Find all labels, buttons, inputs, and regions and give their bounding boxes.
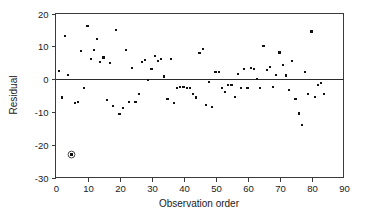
data-point: [301, 124, 303, 126]
x-tick-label: 10: [83, 183, 94, 194]
data-point: [304, 71, 306, 73]
data-point: [218, 71, 220, 73]
data-point: [166, 98, 168, 100]
data-point: [147, 79, 149, 81]
data-point: [291, 60, 293, 62]
data-point: [224, 91, 226, 93]
data-point: [211, 106, 213, 108]
data-point: [99, 61, 101, 63]
x-tick-label: 90: [339, 183, 350, 194]
data-point: [74, 102, 76, 104]
data-point: [131, 67, 133, 69]
x-axis-title: Observation order: [159, 198, 240, 209]
data-point: [272, 86, 274, 88]
data-point: [314, 96, 316, 98]
data-point: [122, 107, 124, 109]
data-point: [288, 89, 290, 91]
data-point: [115, 29, 117, 31]
residual-plot-canvas: 20100-10-20-30 0102030405060708090 Obser…: [0, 0, 368, 217]
x-tick-label: 80: [307, 183, 318, 194]
data-point: [285, 74, 287, 76]
data-point: [230, 84, 232, 86]
scatter-points: [58, 25, 326, 156]
data-point: [250, 67, 252, 69]
x-tick-label: 40: [179, 183, 190, 194]
x-tick-label: 50: [211, 183, 222, 194]
x-tick-label: 60: [243, 183, 254, 194]
data-point: [214, 71, 216, 73]
data-point: [208, 81, 210, 83]
data-point: [234, 96, 236, 98]
data-point: [93, 49, 95, 51]
data-point: [259, 87, 261, 89]
data-point: [102, 56, 104, 58]
y-axis: 20100-10-20-30: [35, 9, 56, 184]
data-point: [179, 86, 181, 88]
data-point: [240, 87, 242, 89]
data-point: [118, 113, 120, 115]
data-point: [195, 96, 197, 98]
y-tick-label: 20: [38, 9, 49, 20]
data-point: [221, 87, 223, 89]
y-tick-label: -20: [35, 140, 49, 151]
data-point: [323, 93, 325, 95]
x-tick-label: 70: [275, 183, 286, 194]
data-point: [269, 66, 271, 68]
data-point: [275, 74, 277, 76]
data-point: [310, 30, 312, 32]
y-tick-label: -30: [35, 173, 49, 184]
data-point: [106, 99, 108, 101]
data-point: [173, 102, 175, 104]
data-point: [128, 101, 130, 103]
data-point: [80, 50, 82, 52]
data-point: [202, 48, 204, 50]
data-point: [109, 62, 111, 64]
data-point: [298, 112, 300, 114]
data-point: [317, 84, 319, 86]
data-point: [282, 64, 284, 66]
x-axis: 0102030405060708090: [54, 178, 350, 194]
data-point: [170, 58, 172, 60]
data-point: [86, 25, 88, 27]
y-tick-label: -10: [35, 107, 49, 118]
data-point: [307, 93, 309, 95]
data-point: [262, 45, 264, 47]
data-point: [144, 59, 146, 61]
data-point: [64, 35, 66, 37]
y-axis-title: Residual: [8, 76, 19, 115]
x-tick-label: 30: [147, 183, 158, 194]
data-point: [58, 70, 60, 72]
data-point: [278, 51, 280, 53]
data-point: [134, 101, 136, 103]
data-point: [182, 86, 184, 88]
data-point: [77, 101, 79, 103]
data-point: [256, 78, 258, 80]
data-point: [83, 87, 85, 89]
data-point: [243, 68, 245, 70]
x-tick-label: 0: [54, 183, 59, 194]
data-point: [67, 74, 69, 76]
data-point: [125, 49, 127, 51]
data-point: [70, 153, 72, 155]
data-point: [205, 104, 207, 106]
residual-scatter-figure: 20100-10-20-30 0102030405060708090 Obser…: [0, 0, 368, 217]
data-point: [227, 84, 229, 86]
y-tick-label: 0: [43, 74, 48, 85]
x-tick-label: 20: [115, 183, 126, 194]
data-point: [154, 55, 156, 57]
data-point: [237, 73, 239, 75]
y-tick-label: 10: [38, 41, 49, 52]
data-point: [141, 61, 143, 63]
data-point: [192, 93, 194, 95]
data-point: [61, 96, 63, 98]
data-point: [90, 58, 92, 60]
data-point: [96, 38, 98, 40]
plot-frame: [56, 14, 344, 178]
data-point: [246, 87, 248, 89]
data-point: [138, 93, 140, 95]
data-point: [198, 52, 200, 54]
data-point: [189, 87, 191, 89]
data-point: [112, 105, 114, 107]
data-point: [253, 68, 255, 70]
data-point: [294, 98, 296, 100]
